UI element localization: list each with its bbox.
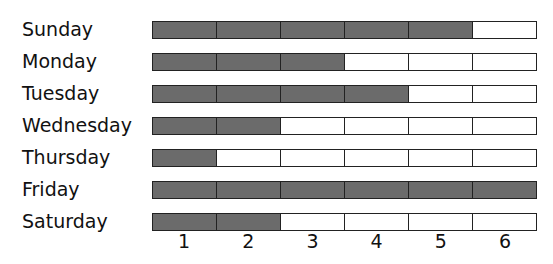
day-label: Saturday (22, 209, 108, 233)
empty-cell (409, 214, 473, 230)
empty-cell (473, 22, 536, 38)
day-label: Tuesday (22, 81, 99, 105)
chart-row: Saturday (0, 213, 553, 231)
chart-row: Friday (0, 181, 553, 199)
filled-cell (345, 86, 409, 102)
filled-cell (153, 182, 217, 198)
bar (152, 53, 537, 71)
filled-cell (153, 22, 217, 38)
empty-cell (345, 54, 409, 70)
x-tick: 1 (152, 230, 216, 252)
filled-cell (217, 182, 281, 198)
filled-cell (281, 86, 345, 102)
filled-cell (153, 54, 217, 70)
empty-cell (345, 214, 409, 230)
bar (152, 181, 537, 199)
chart-row: Monday (0, 53, 553, 71)
filled-cell (345, 182, 409, 198)
empty-cell (473, 118, 536, 134)
empty-cell (345, 150, 409, 166)
chart-row: Wednesday (0, 117, 553, 135)
empty-cell (473, 150, 536, 166)
filled-cell (153, 150, 217, 166)
empty-cell (409, 86, 473, 102)
x-tick: 2 (216, 230, 280, 252)
x-tick: 6 (473, 230, 537, 252)
x-tick: 3 (280, 230, 344, 252)
x-axis: 1 2 3 4 5 6 (152, 230, 537, 252)
x-tick: 5 (409, 230, 473, 252)
day-label: Monday (22, 49, 97, 73)
empty-cell (409, 118, 473, 134)
day-label: Friday (22, 177, 80, 201)
empty-cell (473, 214, 536, 230)
chart-row: Sunday (0, 21, 553, 39)
filled-cell (281, 22, 345, 38)
empty-cell (409, 150, 473, 166)
day-label: Sunday (22, 17, 93, 41)
day-label: Thursday (22, 145, 110, 169)
x-tick: 4 (345, 230, 409, 252)
filled-cell (409, 22, 473, 38)
filled-cell (217, 86, 281, 102)
bar (152, 85, 537, 103)
chart-row: Tuesday (0, 85, 553, 103)
filled-cell (217, 214, 281, 230)
empty-cell (281, 214, 345, 230)
filled-cell (281, 54, 345, 70)
filled-cell (153, 214, 217, 230)
filled-cell (473, 182, 536, 198)
empty-cell (473, 86, 536, 102)
filled-cell (281, 182, 345, 198)
filled-cell (217, 54, 281, 70)
empty-cell (409, 54, 473, 70)
bar (152, 117, 537, 135)
day-label: Wednesday (22, 113, 132, 137)
empty-cell (281, 118, 345, 134)
filled-cell (217, 22, 281, 38)
filled-cell (409, 182, 473, 198)
filled-cell (153, 86, 217, 102)
bar (152, 149, 537, 167)
filled-cell (345, 22, 409, 38)
empty-cell (217, 150, 281, 166)
empty-cell (281, 150, 345, 166)
chart-row: Thursday (0, 149, 553, 167)
empty-cell (473, 54, 536, 70)
filled-cell (153, 118, 217, 134)
filled-cell (217, 118, 281, 134)
bar (152, 21, 537, 39)
empty-cell (345, 118, 409, 134)
bar (152, 213, 537, 231)
